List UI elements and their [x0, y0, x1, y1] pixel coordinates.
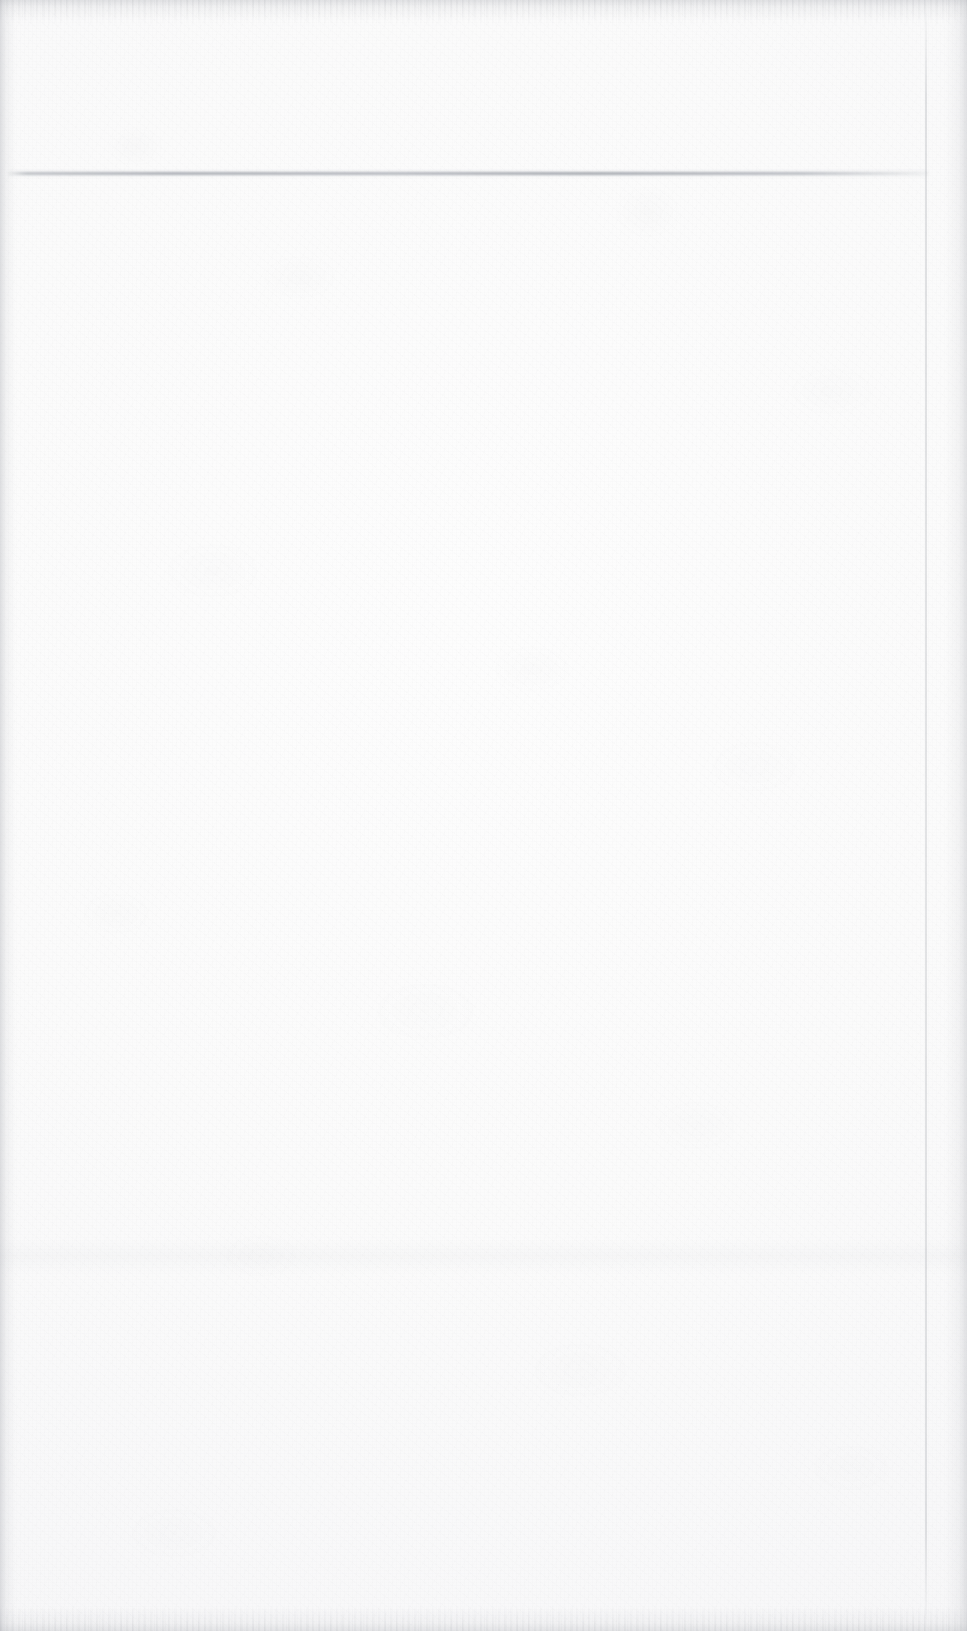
paper-grain-texture — [0, 0, 967, 1631]
horizontal-rule — [8, 172, 928, 175]
top-edge-speckle — [0, 0, 967, 26]
scan-illumination — [0, 0, 967, 1631]
scan-edge-vignette — [0, 0, 967, 1631]
faint-tonal-band — [0, 1238, 967, 1274]
scanned-page — [0, 0, 967, 1631]
paper-mottle-texture — [0, 0, 967, 1631]
bottom-edge-speckle — [0, 1605, 967, 1631]
right-edge-seam — [925, 0, 927, 1631]
